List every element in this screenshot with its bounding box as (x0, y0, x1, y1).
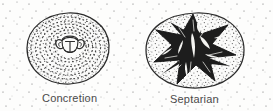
figure-illustration (0, 0, 273, 111)
septarian-label: Septarian (170, 93, 219, 105)
concretion-label: Concretion (42, 92, 97, 104)
fossil-nucleus (56, 34, 85, 57)
geology-figure: Concretion Septarian (0, 0, 273, 111)
